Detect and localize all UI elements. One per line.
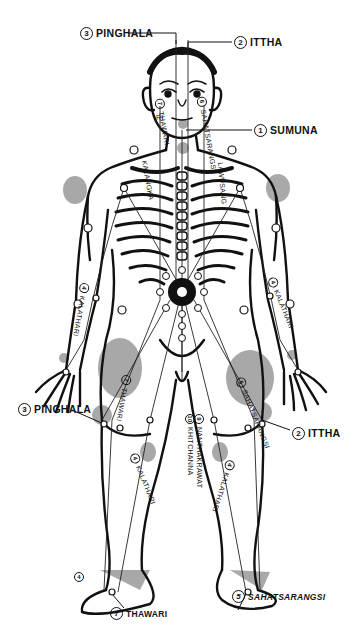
label-pinghala-side: 3PINGHALA [18,402,91,416]
number-badge: 2 [234,36,247,49]
label-foot-left-number: 4 [74,572,87,582]
number-badge: 3 [80,27,93,40]
label-nanthakrawat: 9NANTHAKRAWAT [194,414,204,488]
label-foot-right: 5SAHATSARANGSI [232,590,325,603]
label-pinghala-top: 3PINGHALA [80,26,153,40]
label-foot-left: 7THAWARI [110,607,167,620]
number-badge: 1 [254,124,267,137]
body-figure [0,0,353,634]
label-ittha-top: 2ITTHA [234,35,282,49]
label-face-left-ri: RI [156,114,164,121]
label-khitchanna: 10KHITCHANNA [185,414,195,476]
label-sumuna: 1SUMUNA [254,123,318,137]
label-ittha-side: 2ITTHA [292,426,340,440]
